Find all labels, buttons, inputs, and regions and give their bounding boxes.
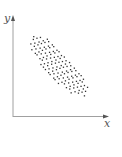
data-point <box>57 72 58 73</box>
data-point <box>49 52 50 53</box>
data-point <box>42 50 43 51</box>
data-point <box>47 39 48 40</box>
data-point <box>78 93 79 94</box>
data-point <box>54 57 55 58</box>
data-point <box>43 40 44 41</box>
data-point <box>57 76 58 77</box>
data-point <box>83 88 84 89</box>
data-point <box>35 48 36 49</box>
data-point <box>48 41 49 42</box>
data-point <box>40 48 41 49</box>
data-point <box>85 91 86 92</box>
data-point <box>43 57 44 58</box>
data-point <box>68 82 69 83</box>
scatter-diagram: y x <box>0 0 122 157</box>
data-point <box>63 67 64 68</box>
data-point <box>54 52 55 53</box>
data-point <box>60 75 61 76</box>
data-point <box>70 86 71 87</box>
x-axis-label: x <box>104 117 111 130</box>
data-point <box>55 59 56 60</box>
data-point <box>47 62 48 63</box>
data-point <box>50 54 51 55</box>
data-point <box>62 72 63 73</box>
data-point <box>75 75 76 76</box>
data-point <box>74 91 75 92</box>
data-point <box>44 47 45 48</box>
data-point <box>44 42 45 43</box>
data-point <box>45 69 46 70</box>
data-point <box>65 60 66 61</box>
data-point <box>57 56 58 57</box>
data-point <box>83 79 84 80</box>
data-point <box>52 67 53 68</box>
data-point <box>69 62 70 63</box>
data-point <box>79 80 80 81</box>
data-point <box>31 49 32 50</box>
data-point <box>81 75 82 76</box>
data-point <box>62 61 63 62</box>
data-point <box>45 53 46 54</box>
data-point <box>53 46 54 47</box>
data-point <box>58 62 59 63</box>
data-point <box>40 37 41 38</box>
data-point <box>73 87 74 88</box>
data-point <box>50 57 51 58</box>
data-point <box>56 66 57 67</box>
data-point <box>45 48 46 49</box>
data-point <box>81 92 82 93</box>
data-point <box>71 71 72 72</box>
data-point <box>51 61 52 62</box>
data-point <box>52 44 53 45</box>
data-point <box>77 87 78 88</box>
data-point <box>36 54 37 55</box>
data-point <box>34 46 35 47</box>
data-point <box>56 50 57 51</box>
data-point <box>64 83 65 84</box>
data-point <box>78 73 79 74</box>
data-point <box>84 95 85 96</box>
data-point <box>30 43 31 44</box>
data-point <box>48 68 49 69</box>
data-point <box>66 70 67 71</box>
data-point <box>54 79 55 80</box>
data-point <box>77 83 78 84</box>
data-point <box>58 83 59 84</box>
data-point <box>41 53 42 54</box>
data-point <box>76 76 77 77</box>
data-point <box>61 65 62 66</box>
data-point <box>33 39 34 40</box>
data-point <box>37 44 38 45</box>
data-point <box>44 63 45 64</box>
data-point <box>59 78 60 79</box>
data-point <box>53 51 54 52</box>
data-point <box>55 63 56 64</box>
data-point <box>33 36 34 37</box>
data-point <box>49 47 50 48</box>
data-point <box>75 70 76 71</box>
data-point <box>47 65 48 66</box>
data-point <box>72 82 73 83</box>
data-point <box>70 65 71 66</box>
data-point <box>72 77 73 78</box>
point-cloud <box>30 36 88 97</box>
data-point <box>41 43 42 44</box>
data-point <box>69 88 70 89</box>
data-point <box>70 69 71 70</box>
data-point <box>38 41 39 42</box>
data-point <box>40 64 41 65</box>
data-point <box>39 58 40 59</box>
data-point <box>56 69 57 70</box>
data-point <box>80 86 81 87</box>
data-point <box>53 73 54 74</box>
data-point <box>58 51 59 52</box>
data-point <box>48 72 49 73</box>
data-point <box>50 74 51 75</box>
data-point <box>36 38 37 39</box>
data-point <box>42 60 43 61</box>
data-point <box>67 72 68 73</box>
data-point <box>46 55 47 56</box>
data-point <box>87 87 88 88</box>
data-point <box>84 85 85 86</box>
data-point <box>48 46 49 47</box>
